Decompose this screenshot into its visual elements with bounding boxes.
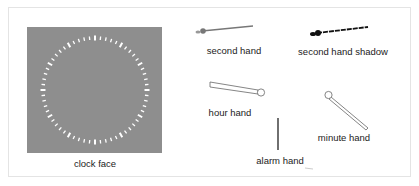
second-hand-shadow-label: second hand shadow (298, 46, 388, 57)
second-hand-shadow-icon (310, 27, 368, 36)
minute-hand-icon (325, 91, 368, 130)
clock-face-label: clock face (74, 158, 116, 169)
hour-hand-icon (210, 82, 265, 96)
hour-hand-label: hour hand (209, 107, 252, 118)
second-hand-icon (196, 26, 254, 34)
clock-face-ticks (41, 36, 150, 145)
stray-mark (305, 168, 313, 169)
second-hand-label: second hand (207, 45, 261, 56)
minute-hand-label: minute hand (318, 132, 370, 143)
clock-parts-art (0, 0, 419, 186)
alarm-hand-label: alarm hand (256, 155, 304, 166)
